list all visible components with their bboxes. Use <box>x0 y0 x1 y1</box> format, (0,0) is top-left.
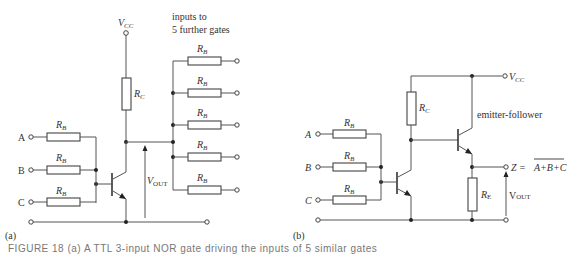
input-b-label: B <box>18 165 25 176</box>
fanout-resistor-4: RB <box>173 139 239 161</box>
input-b-terminal-b <box>316 165 320 169</box>
svg-text:RB: RB <box>196 139 208 152</box>
panel-a-label: (a) <box>5 230 16 242</box>
rc-label-b: RC <box>418 102 430 115</box>
input-a-terminal-b <box>316 132 320 136</box>
ground-terminal-left-b <box>316 218 320 222</box>
output-terminal-z <box>504 165 508 169</box>
output-expression: A+B+C <box>533 162 567 173</box>
fanout-resistor-5: RB <box>173 172 239 194</box>
circuit-diagram: VCC RC A RB B <box>0 0 577 254</box>
vout-label-a: VOUT <box>147 175 168 188</box>
vcc-label-a: VCC <box>118 17 134 30</box>
svg-text:RB: RB <box>196 172 208 185</box>
input-a-terminal <box>29 135 33 139</box>
input-c-terminal-b <box>316 198 320 202</box>
svg-text:RB: RB <box>343 150 355 163</box>
ground-terminal-left-a <box>29 220 33 224</box>
svg-text:RB: RB <box>343 117 355 130</box>
npn-transistor-a <box>112 173 126 222</box>
base-resistor-a1 <box>47 133 80 141</box>
base-resistor-a2 <box>47 166 80 174</box>
vcc-label-b: VCC <box>509 71 525 84</box>
svg-text:RB: RB <box>55 152 67 165</box>
figure-caption: FIGURE 18 (a) A TTL 3-input NOR gate dri… <box>8 243 377 254</box>
fanout-resistor-2: RB <box>173 75 239 97</box>
fanout-resistor-3: RB <box>173 107 239 129</box>
svg-text:RB: RB <box>196 75 208 88</box>
input-c-label-b: C <box>305 195 312 206</box>
svg-text:RB: RB <box>196 43 208 56</box>
emitter-follower-transistor <box>458 76 472 178</box>
ground-terminal-right-a <box>205 220 209 224</box>
panel-a: VCC RC A RB B <box>5 11 239 242</box>
vcc-terminal-a <box>124 31 129 36</box>
svg-text:RB: RB <box>196 107 208 120</box>
panel-b: VCC RC emitter-follower Z = A+B+C RE <box>293 71 567 242</box>
fanout-note-line2: 5 further gates <box>172 24 230 35</box>
rc-label-a: RC <box>133 88 145 101</box>
vcc-terminal-b <box>503 74 507 78</box>
ground-terminal-right-b <box>504 218 508 222</box>
input-transistor-b <box>397 172 411 220</box>
emitter-follower-label: emitter-follower <box>477 109 543 120</box>
vout-label-b: VOUT <box>509 190 531 201</box>
svg-text:RB: RB <box>55 119 67 132</box>
collector-resistor-b <box>407 92 416 125</box>
svg-text:RB: RB <box>343 183 355 196</box>
collector-resistor-a <box>122 78 131 110</box>
input-a-label-b: A <box>304 129 312 140</box>
input-c-terminal <box>29 200 33 204</box>
input-c-label: C <box>18 197 25 208</box>
emitter-resistor <box>468 178 477 211</box>
panel-b-label: (b) <box>293 230 305 242</box>
output-z-prefix: Z = <box>511 162 526 173</box>
fanout-note-line1: inputs to <box>172 11 207 22</box>
input-b-label-b: B <box>305 162 311 173</box>
fanout-resistor-1: RB <box>173 43 239 65</box>
svg-text:RB: RB <box>55 185 67 198</box>
base-resistor-a3 <box>47 198 80 206</box>
input-a-label: A <box>18 132 26 143</box>
re-label: RE <box>480 189 491 201</box>
input-b-terminal <box>29 168 33 172</box>
